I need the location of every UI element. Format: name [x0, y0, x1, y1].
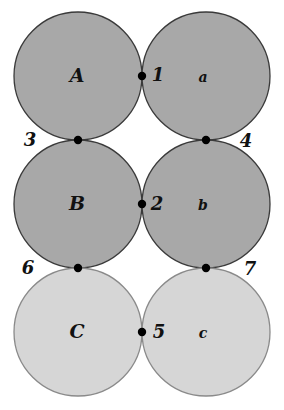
- circle-label-upper-c: C: [69, 320, 84, 342]
- tangent-point-6: [74, 264, 82, 272]
- circle-label-lower-b: b: [198, 197, 208, 213]
- tangent-point-3: [74, 136, 82, 144]
- tangent-point-4: [202, 136, 210, 144]
- point-label-6: 6: [22, 257, 35, 278]
- point-label-5: 5: [153, 321, 166, 342]
- point-label-2: 2: [150, 193, 164, 214]
- tangent-circles-diagram: AaBbCc1234567: [0, 0, 284, 410]
- point-label-3: 3: [24, 129, 37, 150]
- point-label-4: 4: [240, 130, 253, 151]
- tangent-point-1: [138, 72, 146, 80]
- tangent-point-5: [138, 328, 146, 336]
- circle-label-lower-c: c: [199, 325, 208, 341]
- tangent-point-7: [202, 264, 210, 272]
- circle-label-upper-b: B: [68, 192, 85, 214]
- circle-label-upper-a: A: [68, 64, 85, 86]
- point-label-7: 7: [244, 258, 257, 279]
- circle-label-lower-a: a: [198, 69, 207, 85]
- point-label-1: 1: [152, 64, 165, 85]
- tangent-point-2: [138, 200, 146, 208]
